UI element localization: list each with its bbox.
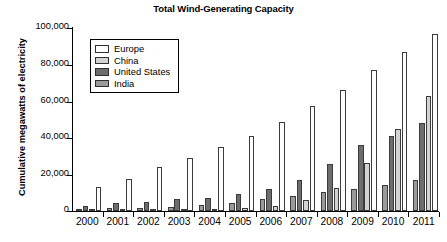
bar-india-2002 bbox=[137, 208, 143, 211]
bar-india-2004 bbox=[199, 205, 205, 210]
y-tick-label: 80,000 bbox=[41, 58, 69, 68]
bar-india-2007 bbox=[290, 196, 296, 211]
x-tick-label: 2002 bbox=[133, 216, 164, 227]
bar-united-states-2001 bbox=[113, 203, 119, 211]
bar-europe-2000 bbox=[96, 187, 102, 211]
x-tick-mark bbox=[439, 212, 440, 217]
bar-india-2001 bbox=[107, 208, 113, 211]
legend-item-europe: Europe bbox=[95, 43, 170, 55]
legend-item-china: China bbox=[95, 55, 170, 67]
bar-india-2000 bbox=[76, 209, 82, 211]
x-tick-label: 2011 bbox=[408, 216, 439, 227]
legend-swatch-china bbox=[95, 57, 109, 65]
bar-europe-2008 bbox=[340, 90, 346, 211]
y-axis-title: Cumulative megawatts of electricity bbox=[17, 22, 27, 212]
bar-china-2005 bbox=[242, 208, 248, 210]
x-tick-label: 2000 bbox=[72, 216, 103, 227]
x-tick-label: 2001 bbox=[103, 216, 134, 227]
y-tick-label: 100,000 bbox=[35, 21, 69, 31]
bar-united-states-2008 bbox=[327, 164, 333, 211]
bar-united-states-2000 bbox=[83, 206, 89, 211]
bar-united-states-2006 bbox=[266, 189, 272, 210]
chart-page: Total Wind-Generating Capacity Cumulativ… bbox=[0, 0, 447, 242]
bar-europe-2006 bbox=[279, 122, 285, 210]
bar-china-2002 bbox=[150, 209, 156, 211]
bar-europe-2005 bbox=[249, 136, 255, 211]
bar-india-2009 bbox=[351, 189, 357, 211]
x-tick-label: 2006 bbox=[256, 216, 287, 227]
bar-europe-2007 bbox=[310, 106, 316, 211]
bar-group bbox=[378, 28, 409, 211]
bar-group bbox=[256, 28, 287, 211]
bar-china-2010 bbox=[395, 129, 401, 211]
x-tick-label: 2007 bbox=[286, 216, 317, 227]
bar-europe-2003 bbox=[187, 158, 193, 211]
legend-label: China bbox=[114, 55, 139, 66]
x-tick-label: 2010 bbox=[378, 216, 409, 227]
x-tick-label: 2005 bbox=[225, 216, 256, 227]
bar-group bbox=[347, 28, 378, 211]
bar-india-2011 bbox=[413, 180, 419, 211]
bar-china-2001 bbox=[120, 209, 126, 211]
legend-swatch-united-states bbox=[95, 68, 109, 76]
bar-europe-2010 bbox=[402, 52, 408, 211]
x-tick-label: 2004 bbox=[194, 216, 225, 227]
bar-europe-2004 bbox=[218, 147, 224, 211]
legend-label: Europe bbox=[114, 43, 144, 54]
bar-china-2006 bbox=[273, 206, 279, 211]
bar-india-2005 bbox=[229, 203, 235, 211]
x-tick-label: 2008 bbox=[317, 216, 348, 227]
x-tick-label: 2003 bbox=[164, 216, 195, 227]
y-tick-label: 0 bbox=[64, 204, 69, 214]
y-tick-label: 40,000 bbox=[41, 131, 69, 141]
bar-china-2003 bbox=[181, 209, 187, 211]
bar-india-2008 bbox=[321, 192, 327, 210]
bar-united-states-2010 bbox=[389, 136, 395, 211]
bar-united-states-2009 bbox=[358, 145, 364, 211]
bar-china-2007 bbox=[303, 200, 309, 211]
legend-item-united-states: United States bbox=[95, 66, 170, 78]
bar-europe-2001 bbox=[126, 179, 132, 211]
bar-china-2009 bbox=[364, 163, 370, 211]
bar-united-states-2007 bbox=[297, 180, 303, 211]
bar-group bbox=[286, 28, 317, 211]
bar-europe-2009 bbox=[371, 70, 377, 211]
y-tick-label: 60,000 bbox=[41, 95, 69, 105]
bar-united-states-2002 bbox=[144, 202, 150, 211]
bar-china-2004 bbox=[212, 209, 218, 211]
bar-china-2000 bbox=[89, 209, 95, 211]
legend-swatch-europe bbox=[95, 45, 109, 53]
bar-united-states-2003 bbox=[174, 199, 180, 211]
x-tick-label: 2009 bbox=[347, 216, 378, 227]
legend-swatch-india bbox=[95, 80, 109, 88]
bar-united-states-2011 bbox=[419, 123, 425, 210]
legend-label: United States bbox=[114, 66, 170, 77]
bar-india-2010 bbox=[382, 185, 388, 210]
bar-india-2003 bbox=[168, 207, 174, 211]
bar-group bbox=[225, 28, 256, 211]
bar-group bbox=[194, 28, 225, 211]
bar-china-2008 bbox=[334, 188, 340, 210]
bar-china-2011 bbox=[426, 96, 432, 211]
legend-label: India bbox=[114, 78, 134, 89]
bar-group bbox=[408, 28, 439, 211]
bar-europe-2002 bbox=[157, 167, 163, 211]
bar-europe-2011 bbox=[432, 34, 438, 211]
y-tick-label: 20,000 bbox=[41, 168, 69, 178]
bar-group bbox=[317, 28, 348, 211]
chart-legend: EuropeChinaUnited StatesIndia bbox=[90, 39, 179, 93]
chart-title: Total Wind-Generating Capacity bbox=[0, 3, 447, 14]
bar-united-states-2005 bbox=[236, 194, 242, 211]
bar-united-states-2004 bbox=[205, 198, 211, 210]
legend-item-india: India bbox=[95, 78, 170, 90]
bar-india-2006 bbox=[260, 199, 266, 211]
